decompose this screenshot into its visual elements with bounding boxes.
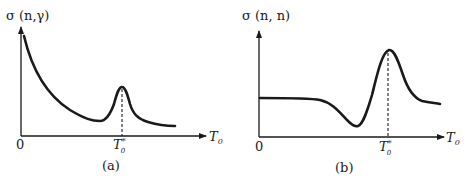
y-axis-label: σ (n,γ) <box>6 8 49 23</box>
panel-b: σ (n, n) T0 0 T*0 (b) <box>242 8 460 175</box>
cross-section-curve <box>24 36 175 126</box>
origin-label: 0 <box>16 137 24 152</box>
y-axis-label: σ (n, n) <box>242 8 290 23</box>
resonance-label: T*0 <box>113 137 126 155</box>
x-axis-label: T0 <box>209 129 223 146</box>
caption-a: (a) <box>102 158 120 173</box>
figure: σ (n,γ) T0 0 T*0 (a) σ (n, n) T0 0 T*0 (… <box>0 0 469 186</box>
cross-section-curve <box>260 50 440 126</box>
resonance-label: T*0 <box>379 139 392 157</box>
origin-label: 0 <box>255 139 263 154</box>
caption-b: (b) <box>335 160 353 175</box>
panel-a: σ (n,γ) T0 0 T*0 (a) <box>6 8 223 173</box>
x-axis-label: T0 <box>446 130 460 147</box>
